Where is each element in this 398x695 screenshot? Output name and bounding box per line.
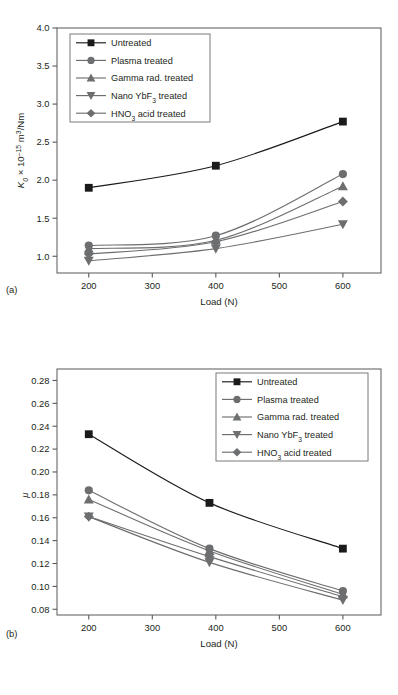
- data-series-group: [84, 118, 348, 266]
- x-tick-label: 200: [81, 280, 97, 291]
- y-axis-title: μ: [19, 492, 30, 499]
- data-point-square: [339, 118, 347, 126]
- y-tick-label: 0.24: [31, 421, 49, 432]
- y-tick-label: 3.0: [36, 98, 49, 109]
- data-point-triangle-up: [84, 494, 94, 503]
- x-tick-label: 200: [81, 622, 97, 633]
- data-point-square: [206, 499, 214, 507]
- y-tick-label: 2.0: [36, 174, 49, 185]
- data-point-circle: [339, 170, 347, 178]
- panel-letter: (b): [6, 628, 17, 639]
- y-axis: 1.01.52.02.53.03.54.0: [36, 22, 57, 261]
- chart-panel-a: 1.01.52.02.53.03.54.0200300400500600Load…: [0, 0, 398, 347]
- data-point-circle: [85, 486, 93, 494]
- y-tick-label: 0.26: [31, 398, 49, 409]
- x-tick-label: 500: [272, 280, 288, 291]
- data-point-square: [339, 545, 347, 553]
- x-axis: 200300400500600: [81, 615, 351, 633]
- data-point-square: [85, 184, 93, 192]
- figure-container: 1.01.52.02.53.03.54.0200300400500600Load…: [0, 0, 398, 695]
- data-point-triangle-up: [338, 181, 348, 190]
- x-tick-label: 400: [208, 280, 224, 291]
- y-tick-label: 0.22: [31, 443, 49, 454]
- y-tick-label: 0.08: [31, 604, 49, 615]
- legend-label: Gamma rad. treated: [257, 412, 339, 422]
- y-axis-title: K0 × 10–15 m3/Nm: [15, 113, 29, 189]
- y-tick-label: 0.16: [31, 512, 49, 523]
- x-tick-label: 300: [144, 280, 160, 291]
- y-tick-label: 1.5: [36, 213, 49, 224]
- legend-marker-square: [88, 39, 95, 46]
- legend: UntreatedPlasma treatedGamma rad. treate…: [70, 34, 210, 122]
- data-point-diamond: [338, 197, 348, 207]
- chart-b-svg: 0.080.100.120.140.160.180.200.220.240.26…: [0, 347, 398, 695]
- legend-label: Untreated: [111, 38, 151, 48]
- legend-label: Plasma treated: [257, 395, 319, 405]
- y-axis: 0.080.100.120.140.160.180.200.220.240.26…: [31, 375, 57, 615]
- y-tick-label: 0.12: [31, 558, 49, 569]
- data-point-square: [212, 162, 220, 170]
- legend-label: Gamma rad. treated: [111, 73, 193, 83]
- y-tick-label: 0.14: [31, 535, 49, 546]
- chart-a-svg: 1.01.52.02.53.03.54.0200300400500600Load…: [0, 0, 398, 347]
- series-hno3-acid-treated: [84, 512, 348, 602]
- legend-marker-circle: [233, 396, 240, 403]
- y-tick-label: 0.28: [31, 375, 49, 386]
- y-tick-label: 1.0: [36, 251, 49, 262]
- series-line: [89, 517, 343, 597]
- y-tick-label: 0.10: [31, 581, 49, 592]
- y-tick-label: 2.5: [36, 136, 49, 147]
- data-point-square: [85, 430, 93, 438]
- x-tick-label: 600: [335, 280, 351, 291]
- legend-label: Untreated: [257, 377, 297, 387]
- y-tick-label: 0.18: [31, 489, 49, 500]
- x-axis-title: Load (N): [200, 638, 237, 649]
- legend-label: Plasma treated: [111, 56, 173, 66]
- x-tick-label: 400: [208, 622, 224, 633]
- x-axis: 200300400500600: [81, 273, 351, 291]
- legend: UntreatedPlasma treatedGamma rad. treate…: [216, 373, 368, 461]
- panel-letter: (a): [6, 284, 17, 295]
- y-tick-label: 3.5: [36, 60, 49, 71]
- y-tick-label: 4.0: [36, 22, 49, 33]
- series-plasma-treated: [85, 486, 347, 595]
- x-tick-label: 600: [335, 622, 351, 633]
- legend-marker-square: [234, 378, 241, 385]
- y-tick-label: 0.20: [31, 466, 49, 477]
- series-gamma-rad-treated: [84, 494, 348, 598]
- chart-panel-b: 0.080.100.120.140.160.180.200.220.240.26…: [0, 347, 398, 695]
- x-tick-label: 500: [272, 622, 288, 633]
- series-untreated: [85, 118, 347, 192]
- legend-marker-circle: [87, 57, 94, 64]
- x-tick-label: 300: [144, 622, 160, 633]
- series-line: [89, 122, 343, 188]
- x-axis-title: Load (N): [200, 296, 237, 307]
